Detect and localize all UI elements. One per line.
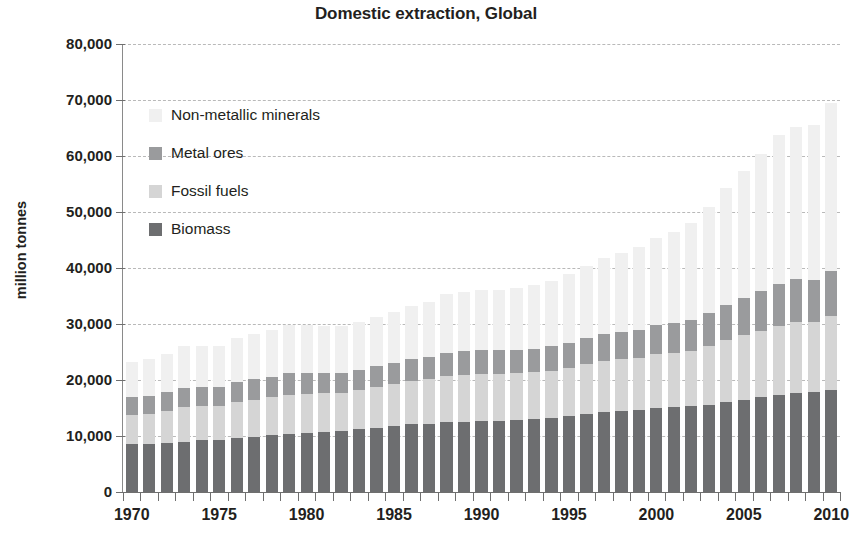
x-axis-tick [630,493,631,501]
bar-2009 [808,125,820,492]
legend-item-label: Fossil fuels [171,182,249,200]
y-axis-tick [116,324,125,325]
bar-2002 [685,223,697,492]
bar-1983 [353,322,365,492]
y-axis-tick-labels: 80,00070,00060,00050,00040,00030,00020,0… [0,44,112,492]
chart-container: Domestic extraction, Global million tonn… [0,0,852,537]
bar-segment [370,428,382,492]
bar-2000 [650,238,662,492]
x-axis-tick [228,493,229,501]
bar-segment [528,372,540,419]
bar-segment [213,387,225,405]
bar-1977 [248,334,260,492]
bar-1995 [563,274,575,492]
bar-segment [685,223,697,320]
bar-segment [650,325,662,354]
bar-segment [738,335,750,399]
y-axis-tick [116,156,125,157]
x-axis-tick [210,493,211,501]
bar-segment [580,414,592,492]
bar-1994 [545,281,557,492]
gridline [123,44,840,45]
x-axis-tick [665,493,666,501]
bar-1987 [423,302,435,492]
bar-segment [703,346,715,404]
bar-1978 [266,330,278,492]
bar-1982 [335,326,347,492]
y-axis-tick [116,44,125,45]
bar-1986 [405,306,417,492]
legend-item[interactable]: Non-metallic minerals [149,96,409,134]
legend-item[interactable]: Biomass [149,210,409,248]
bar-segment [231,338,243,382]
bar-segment [143,414,155,445]
bar-segment [738,298,750,336]
x-axis-tick [508,493,509,501]
bar-1973 [178,346,190,492]
x-axis-line [122,492,841,493]
bar-segment [580,338,592,364]
bar-segment [615,411,627,492]
bar-segment [458,422,470,492]
legend-item[interactable]: Metal ores [149,134,409,172]
bar-segment [440,294,452,352]
bar-segment [475,374,487,421]
bar-segment [773,135,785,283]
x-axis-tick-label: 1985 [354,506,434,524]
bar-segment [126,415,138,445]
bar-1970 [126,362,138,492]
x-axis-tick [560,493,561,501]
bar-segment [493,290,505,350]
bar-segment [598,361,610,413]
x-axis-tick [350,493,351,501]
bar-segment [720,402,732,492]
x-axis-tick [613,493,614,501]
x-axis-tick [158,493,159,501]
bar-segment [266,435,278,492]
bar-segment [545,371,557,419]
bar-segment [790,127,802,279]
x-axis-tick [175,493,176,501]
y-axis-tick-label: 10,000 [2,427,112,444]
bar-segment [318,373,330,394]
bar-segment [301,373,313,394]
bar-segment [808,125,820,281]
bar-segment [790,322,802,393]
bar-segment [703,313,715,346]
bar-segment [335,431,347,492]
bar-segment [353,429,365,492]
bar-segment [301,394,313,433]
bar-1991 [493,290,505,492]
bar-segment [440,353,452,377]
bar-segment [283,373,295,394]
bar-segment [458,351,470,375]
x-axis-tick [805,493,806,501]
bar-segment [405,424,417,492]
bar-segment [493,374,505,421]
bar-segment [808,322,820,392]
bar-segment [825,271,837,316]
bar-segment [790,279,802,322]
legend-item-label: Non-metallic minerals [171,106,320,124]
bar-segment [423,302,435,357]
x-axis-tick [788,493,789,501]
x-axis-tick [683,493,684,501]
bar-segment [213,346,225,387]
bar-segment [213,406,225,440]
bar-segment [161,354,173,393]
bar-segment [388,312,400,363]
bar-1974 [196,346,208,492]
bar-segment [266,330,278,377]
legend-item[interactable]: Fossil fuels [149,172,409,210]
y-axis-tick-label: 70,000 [2,91,112,108]
x-axis-tick [438,493,439,501]
bar-2006 [755,154,767,492]
bar-segment [598,334,610,361]
bar-segment [633,358,645,410]
y-axis-tick-label: 0 [2,483,112,500]
bar-segment [650,408,662,492]
x-axis-tick [420,493,421,501]
bar-segment [808,392,820,492]
bar-1999 [633,247,645,492]
bar-2008 [790,127,802,492]
